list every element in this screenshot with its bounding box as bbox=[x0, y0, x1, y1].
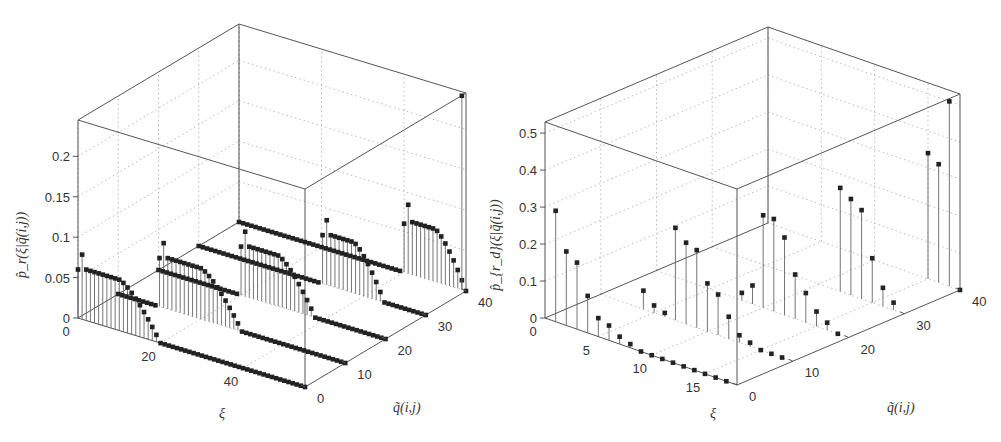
stem-marker bbox=[793, 272, 798, 277]
x-tick-label: 15 bbox=[686, 380, 700, 395]
stem-marker bbox=[156, 268, 161, 273]
stem-marker bbox=[224, 361, 229, 366]
y-tick-label: 20 bbox=[398, 343, 412, 358]
stem-marker bbox=[703, 372, 708, 377]
stem-marker bbox=[96, 271, 101, 276]
y-tick-label: 40 bbox=[972, 294, 986, 309]
x-tick-label: 5 bbox=[583, 343, 590, 358]
stem-marker bbox=[142, 310, 147, 315]
stem-marker bbox=[399, 305, 404, 310]
stem-marker bbox=[323, 246, 328, 251]
stem-marker bbox=[342, 324, 347, 329]
stem-marker bbox=[249, 223, 254, 228]
z-tick-label: 0.15 bbox=[45, 190, 70, 205]
stem-marker bbox=[290, 381, 295, 386]
stem-marker bbox=[289, 344, 294, 349]
stem-marker bbox=[333, 234, 338, 239]
stem-marker bbox=[303, 240, 308, 245]
stem-marker bbox=[191, 351, 196, 356]
stem-marker bbox=[218, 287, 223, 292]
y-tick-label: 20 bbox=[861, 342, 875, 357]
stem-marker bbox=[273, 339, 278, 344]
stem-marker bbox=[367, 332, 372, 337]
stem-marker bbox=[236, 321, 241, 326]
stem-marker bbox=[225, 252, 230, 257]
stem-marker bbox=[694, 248, 699, 253]
stem-marker bbox=[298, 347, 303, 352]
stem-marker bbox=[124, 294, 129, 299]
stem-marker bbox=[361, 257, 366, 262]
stem-marker bbox=[825, 320, 830, 325]
stem-marker bbox=[170, 257, 175, 262]
stem-marker bbox=[271, 266, 276, 271]
stem-marker bbox=[324, 218, 329, 223]
stem-marker bbox=[422, 224, 427, 229]
stem-marker bbox=[182, 261, 187, 266]
stem-marker bbox=[100, 272, 105, 277]
stem-marker bbox=[285, 343, 290, 348]
stem-marker bbox=[726, 314, 731, 319]
stem-marker bbox=[245, 222, 250, 227]
z-tick-label: 0.2 bbox=[519, 237, 537, 252]
stem-marker bbox=[286, 380, 291, 385]
stem-marker bbox=[455, 268, 460, 273]
stem-marker bbox=[307, 241, 312, 246]
stem-marker bbox=[204, 355, 209, 360]
stem-marker bbox=[322, 354, 327, 359]
stem-marker bbox=[274, 231, 279, 236]
stem-marker bbox=[216, 358, 221, 363]
stem-marker bbox=[460, 93, 465, 98]
stem-marker bbox=[120, 293, 125, 298]
y-tick-label: 0 bbox=[749, 389, 756, 404]
stem-marker bbox=[352, 255, 357, 260]
stem-marker bbox=[350, 327, 355, 332]
stem-marker bbox=[154, 333, 159, 338]
stem-marker bbox=[220, 360, 225, 365]
stem-marker bbox=[201, 245, 206, 250]
stem-marker bbox=[282, 378, 287, 383]
stem-marker bbox=[80, 252, 85, 257]
stem-marker bbox=[125, 285, 130, 290]
stem-marker bbox=[607, 323, 612, 328]
stem-marker bbox=[337, 235, 342, 240]
stem-marker bbox=[239, 244, 244, 249]
stem-marker bbox=[240, 329, 245, 334]
stem-marker bbox=[692, 368, 697, 373]
stem-marker bbox=[109, 275, 114, 280]
stem-marker bbox=[321, 318, 326, 323]
stem-marker bbox=[262, 264, 267, 269]
stem-marker bbox=[245, 367, 250, 372]
stem-marker bbox=[371, 333, 376, 338]
stem-marker bbox=[290, 236, 295, 241]
stem-marker bbox=[769, 352, 774, 357]
y-tick-label: 0 bbox=[317, 391, 324, 406]
stem-marker bbox=[193, 279, 198, 284]
stem-marker bbox=[284, 262, 289, 267]
stem-marker bbox=[287, 271, 292, 276]
stem3d-figure: 00.050.10.150.202040010203040ξq̃(i,j)p̂_… bbox=[0, 0, 1001, 442]
stem-marker bbox=[206, 283, 211, 288]
stem-marker bbox=[244, 331, 249, 336]
stem-marker bbox=[179, 347, 184, 352]
stem-marker bbox=[314, 352, 319, 357]
stem-marker bbox=[196, 244, 201, 249]
stem-marker bbox=[443, 241, 448, 246]
stem-marker bbox=[211, 279, 216, 284]
stem-marker bbox=[229, 254, 234, 259]
stem-marker bbox=[208, 356, 213, 361]
stem-marker bbox=[141, 299, 146, 304]
stem-marker bbox=[671, 360, 676, 365]
stem-marker bbox=[277, 341, 282, 346]
z-tick-label: 0.4 bbox=[519, 163, 537, 178]
stem-marker bbox=[649, 353, 654, 358]
stem-marker bbox=[164, 270, 169, 275]
stem-marker bbox=[705, 281, 710, 286]
stem-marker bbox=[365, 259, 370, 264]
stem-marker bbox=[205, 246, 210, 251]
stem-marker bbox=[278, 232, 283, 237]
stem-marker bbox=[272, 252, 277, 257]
stem-marker bbox=[175, 346, 180, 351]
stem-marker bbox=[296, 274, 301, 279]
stem-marker bbox=[237, 365, 242, 370]
stem-marker bbox=[246, 259, 251, 264]
